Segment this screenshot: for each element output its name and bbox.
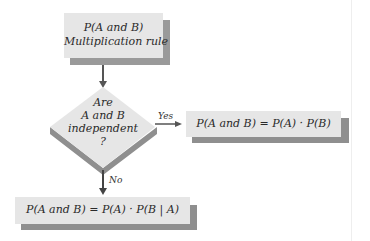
yes-label: Yes xyxy=(158,111,173,121)
decision-diamond: Are A and B independent ? xyxy=(60,96,146,148)
yes-result-box: P(A and B) = P(A) · P(B) xyxy=(186,111,341,137)
decision-line-2: A and B xyxy=(60,109,146,122)
no-result-formula: P(A and B) = P(A) · P(B | A) xyxy=(15,203,190,217)
no-label: No xyxy=(109,175,122,185)
decision-line-4: ? xyxy=(60,135,146,148)
no-result-box: P(A and B) = P(A) · P(B | A) xyxy=(15,197,190,224)
decision-line-1: Are xyxy=(60,96,146,109)
decision-line-3: independent xyxy=(60,122,146,135)
yes-result-formula: P(A and B) = P(A) · P(B) xyxy=(186,117,341,131)
